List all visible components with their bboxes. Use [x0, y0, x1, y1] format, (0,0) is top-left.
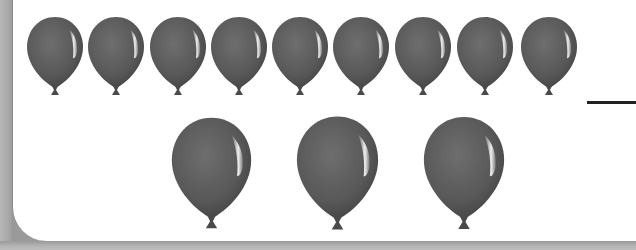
balloon-icon	[25, 14, 85, 98]
balloon-icon	[270, 14, 330, 98]
answer-blank-line[interactable]	[587, 101, 636, 104]
balloon-icon	[455, 14, 515, 98]
balloon-icon	[393, 14, 453, 98]
balloon-icon	[86, 14, 146, 98]
balloon-icon	[421, 111, 507, 235]
balloon-icon	[209, 14, 269, 98]
balloon-icon	[331, 14, 391, 98]
worksheet-frame-bottom	[0, 241, 636, 250]
balloon-icon	[519, 14, 579, 98]
balloon-icon	[148, 14, 208, 98]
balloon-icon	[294, 111, 381, 235]
balloon-icon	[169, 111, 254, 235]
